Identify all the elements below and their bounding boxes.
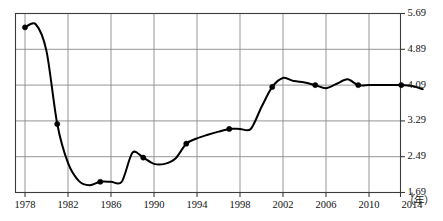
line-chart: 1.692.493.294.094.895.69 197819821986199… — [0, 0, 443, 221]
x-axis-tick-label: 1990 — [144, 200, 165, 211]
y-axis-tick-label: 2.49 — [408, 151, 426, 162]
x-axis-tick-label: 1994 — [187, 200, 208, 211]
grid-lines — [16, 14, 401, 193]
y-axis-tick-label: 4.09 — [408, 80, 426, 91]
y-axis-tick-label: 4.89 — [408, 44, 426, 55]
data-markers — [22, 25, 403, 185]
x-axis-tick-label: 2006 — [316, 200, 337, 211]
x-axis-tick-label: 1978 — [15, 200, 36, 211]
x-axis-tick-label: 2010 — [359, 200, 380, 211]
axis-ticks — [25, 14, 412, 198]
plot-frame — [16, 14, 401, 193]
x-axis-tick-label: 1986 — [101, 200, 122, 211]
y-axis-tick-label: 5.69 — [408, 8, 426, 19]
data-line — [25, 23, 423, 185]
chart-plot-area — [0, 0, 443, 221]
x-axis-tick-label: 1982 — [58, 200, 79, 211]
x-axis-unit-label: （年） — [404, 196, 434, 207]
x-axis-tick-label: 2002 — [273, 200, 294, 211]
x-axis-tick-label: 1998 — [230, 200, 251, 211]
y-axis-tick-label: 3.29 — [408, 115, 426, 126]
